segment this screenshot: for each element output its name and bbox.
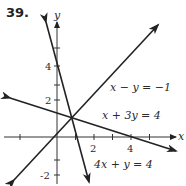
x-tick-label-2: 2 (90, 143, 96, 154)
y-tick-label-4: 4 (45, 61, 51, 72)
y-tick-label-2: 2 (45, 95, 51, 106)
graph-figure: 39. x y (0, 0, 186, 186)
label-x-plus-3y: x + 3y = 4 (102, 109, 161, 122)
y-tick-label-neg2: -2 (40, 170, 50, 181)
x-axis-label: x (178, 130, 185, 143)
line-4x-plus-y-eq-4: 4x + y = 4 (46, 22, 153, 182)
y-axis-label: y (53, 9, 61, 22)
label-x-minus-y: x − y = −1 (110, 81, 171, 94)
label-4x-plus-y: 4x + y = 4 (93, 158, 153, 171)
line-x-minus-y-eq-neg1: x − y = −1 (14, 25, 171, 180)
x-tick-label-4: 4 (127, 143, 133, 154)
problem-number: 39. (6, 5, 29, 20)
